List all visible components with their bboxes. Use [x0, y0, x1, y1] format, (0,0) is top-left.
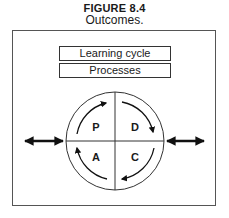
quadrant-label-c: C: [131, 151, 139, 163]
quadrant-label-a: A: [92, 151, 100, 163]
quadrant-label-d: D: [131, 121, 139, 133]
quadrant-label-p: P: [92, 121, 99, 133]
pdca-cycle-diagram: P D C A: [0, 0, 229, 218]
